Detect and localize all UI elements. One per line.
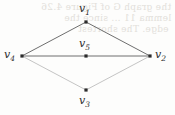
- vertex-label-v4: v4: [4, 49, 15, 63]
- vertex-node-v3: [84, 88, 87, 91]
- vertex-label-v5: v5: [79, 38, 90, 52]
- vertex-node-v5: [84, 54, 87, 57]
- vertex-label-v2-sub: 2: [161, 54, 166, 63]
- edge-v1-v2: [86, 22, 150, 56]
- vertex-node-v4: [20, 54, 23, 57]
- vertex-label-v1: v1: [79, 3, 90, 17]
- vertex-label-v3: v3: [79, 95, 90, 109]
- vertex-label-v2: v2: [155, 49, 166, 63]
- vertex-label-v4-sub: 4: [10, 54, 15, 63]
- vertex-label-v1-sub: 1: [85, 8, 90, 17]
- vertex-node-v2: [148, 54, 151, 57]
- vertex-label-v5-sub: 5: [85, 43, 90, 52]
- edge-v3-v2: [86, 56, 150, 90]
- vertex-label-v3-sub: 3: [85, 100, 90, 109]
- edge-v4-v3: [22, 56, 86, 90]
- edge-v4-v1: [22, 22, 86, 56]
- vertex-node-v1: [84, 20, 87, 23]
- graph-figure: the graph G of Figure 4.26 lemma 11 ... …: [0, 0, 175, 115]
